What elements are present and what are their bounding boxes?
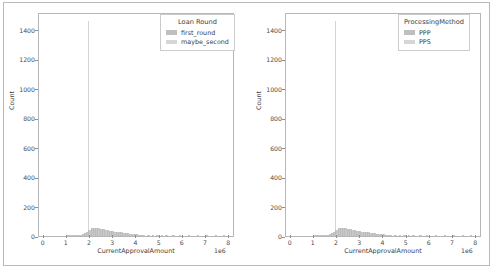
histogram-bar xyxy=(143,235,146,236)
x-tick-mark xyxy=(43,235,44,238)
histogram-bar xyxy=(206,235,209,236)
x-tick-mark xyxy=(112,235,113,238)
legend-swatch-icon xyxy=(404,30,415,35)
x-tick-label: 0 xyxy=(33,239,53,246)
x-tick-mark xyxy=(313,235,314,238)
y-tick-label: 400 xyxy=(252,175,282,181)
x-tick-mark xyxy=(182,235,183,238)
x-tick-mark xyxy=(406,235,407,238)
x-tick-mark xyxy=(205,235,206,238)
x-tick-mark xyxy=(159,235,160,238)
left-y-axis: 0 200 400 600 800 1000 1200 1400 xyxy=(3,13,35,237)
y-axis-title: Count xyxy=(255,91,263,110)
x-tick-mark xyxy=(475,235,476,238)
legend-title: ProcessingMethod xyxy=(404,18,464,26)
x-tick-label: 3 xyxy=(102,239,122,246)
x-tick-mark xyxy=(135,235,136,238)
right-y-axis: 0 200 400 600 800 1000 1200 1400 xyxy=(250,13,282,237)
histogram-bar xyxy=(390,235,393,236)
x-tick-mark xyxy=(290,235,291,238)
legend-title: Loan Round xyxy=(166,18,229,26)
x-tick-mark xyxy=(429,235,430,238)
histogram-spike-bar xyxy=(88,21,90,236)
x-tick-mark xyxy=(89,235,90,238)
histogram-bar xyxy=(399,235,402,236)
left-panel: 0 200 400 600 800 1000 1200 1400 Count xyxy=(0,0,247,271)
x-tick-label: 0 xyxy=(280,239,300,246)
x-tick-mark xyxy=(66,235,67,238)
x-tick-label: 5 xyxy=(149,239,169,246)
histogram-bar xyxy=(172,235,175,236)
histogram-bar xyxy=(435,235,438,236)
y-tick-label: 600 xyxy=(252,145,282,151)
legend-item-label: PPS xyxy=(419,38,431,46)
y-axis-title: Count xyxy=(8,91,16,110)
y-tick-label: 400 xyxy=(5,175,35,181)
x-tick-label: 2 xyxy=(79,239,99,246)
histogram-bar xyxy=(223,235,226,236)
x-tick-mark xyxy=(382,235,383,238)
x-tick-label: 7 xyxy=(195,239,215,246)
histogram-bar xyxy=(412,235,415,236)
y-tick-label: 1400 xyxy=(5,28,35,34)
histogram-bar xyxy=(394,235,397,236)
x-tick-label: 8 xyxy=(218,239,238,246)
legend-swatch-icon xyxy=(166,30,177,35)
x-axis-exponent: 1e6 xyxy=(214,247,226,254)
right-panel: 0 200 400 600 800 1000 1200 1400 Count xyxy=(247,0,494,271)
y-tick-label: 0 xyxy=(5,234,35,240)
histogram-bar xyxy=(152,235,155,236)
legend-item[interactable]: first_round xyxy=(166,29,229,37)
histogram-bar xyxy=(165,235,168,236)
legend-swatch-icon xyxy=(166,40,177,45)
x-tick-mark xyxy=(452,235,453,238)
x-tick-label: 6 xyxy=(172,239,192,246)
legend-item-label: PPP xyxy=(419,29,431,37)
legend-item[interactable]: PPP xyxy=(404,29,464,37)
x-tick-label: 1 xyxy=(303,239,323,246)
x-tick-label: 4 xyxy=(125,239,145,246)
x-axis-title: CurrentApprovalAmount xyxy=(285,247,481,255)
x-axis-title: CurrentApprovalAmount xyxy=(38,247,234,255)
histogram-bar xyxy=(147,235,150,236)
x-axis-exponent: 1e6 xyxy=(461,247,473,254)
x-tick-label: 1 xyxy=(56,239,76,246)
legend-swatch-icon xyxy=(404,40,415,45)
x-tick-label: 3 xyxy=(349,239,369,246)
histogram-bar xyxy=(215,235,218,236)
histogram-bar xyxy=(444,235,447,236)
legend-item-label: maybe_second xyxy=(181,38,229,46)
legend-item[interactable]: PPS xyxy=(404,38,464,46)
y-tick-label: 800 xyxy=(252,116,282,122)
x-tick-label: 2 xyxy=(326,239,346,246)
histogram-bar xyxy=(188,235,191,236)
x-tick-mark xyxy=(359,235,360,238)
legend-item-label: first_round xyxy=(181,29,215,37)
y-tick-label: 600 xyxy=(5,145,35,151)
x-tick-label: 7 xyxy=(442,239,462,246)
x-tick-label: 5 xyxy=(396,239,416,246)
y-tick-label: 800 xyxy=(5,116,35,122)
y-tick-label: 1200 xyxy=(252,57,282,63)
left-legend: Loan Round first_round maybe_second xyxy=(160,14,235,51)
histogram-bar xyxy=(161,235,164,236)
y-tick-label: 200 xyxy=(252,204,282,210)
legend-item[interactable]: maybe_second xyxy=(166,38,229,46)
y-tick-label: 200 xyxy=(5,204,35,210)
right-legend: ProcessingMethod PPP PPS xyxy=(398,14,470,51)
x-tick-mark xyxy=(228,235,229,238)
x-tick-label: 4 xyxy=(372,239,392,246)
figure-canvas: 0 200 400 600 800 1000 1200 1400 Count xyxy=(0,0,494,271)
histogram-bar xyxy=(462,235,465,236)
histogram-bar xyxy=(197,235,200,236)
histogram-bar xyxy=(408,235,411,236)
histogram-spike-bar xyxy=(335,21,337,236)
histogram-bar xyxy=(453,235,456,236)
y-tick-label: 1400 xyxy=(252,28,282,34)
y-tick-label: 1200 xyxy=(5,57,35,63)
x-tick-label: 6 xyxy=(419,239,439,246)
histogram-bar xyxy=(470,235,473,236)
histogram-bar xyxy=(419,235,422,236)
x-tick-label: 8 xyxy=(465,239,485,246)
y-tick-label: 0 xyxy=(252,234,282,240)
